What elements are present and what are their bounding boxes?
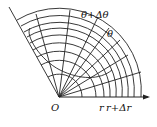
rays <box>9 7 141 97</box>
theta-plus-label: θ+Δθ <box>81 9 109 20</box>
r-label: r <box>99 102 105 113</box>
origin-label: O <box>51 102 59 113</box>
arcs <box>17 8 141 97</box>
r-plus-label: r+Δr <box>106 102 132 113</box>
x-axis <box>59 95 150 100</box>
polar-diagram: O r r+Δr θ+Δθ θ <box>0 0 157 127</box>
theta-label: θ <box>107 28 113 39</box>
